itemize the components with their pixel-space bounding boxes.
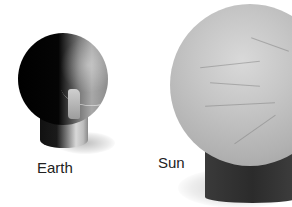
earth-label: Earth (37, 159, 73, 177)
photo-scene: Earth Sun (0, 0, 292, 207)
earth-sphere (18, 33, 108, 125)
sun-label: Sun (158, 154, 185, 172)
earth-surface-patch (68, 89, 80, 119)
sun-texture-streak (205, 102, 275, 107)
sun-texture-streak (210, 82, 260, 86)
sun-texture-streak (251, 37, 289, 52)
sun-texture-streak (234, 115, 276, 144)
sun-texture-streak (200, 61, 260, 68)
sun-sphere (170, 4, 292, 166)
